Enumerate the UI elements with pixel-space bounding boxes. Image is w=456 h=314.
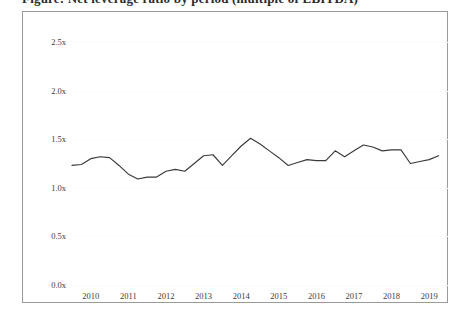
gridline xyxy=(72,285,448,286)
y-axis-tick-label: 2.0x xyxy=(51,86,66,96)
x-axis-tick-label: 2013 xyxy=(195,291,212,301)
y-axis-tick-label: 1.5x xyxy=(51,134,66,144)
figure-container: Figure: Net leverage ratio by period (mu… xyxy=(0,0,456,314)
y-axis-tick-label: 0.0x xyxy=(51,280,66,290)
x-axis-tick-label: 2014 xyxy=(233,291,250,301)
x-axis-tick-label: 2012 xyxy=(158,291,175,301)
plot-area: 0.0x0.5x1.0x1.5x2.0x2.5x 201020112012201… xyxy=(72,42,448,285)
series-line-chart xyxy=(72,42,448,285)
x-axis-tick-label: 2018 xyxy=(383,291,400,301)
chart-title-clipped: Figure: Net leverage ratio by period (mu… xyxy=(0,0,456,9)
x-axis-tick-label: 2019 xyxy=(421,291,438,301)
x-axis-tick-label: 2011 xyxy=(120,291,137,301)
x-axis-tick-label: 2010 xyxy=(82,291,99,301)
y-axis-tick-label: 2.5x xyxy=(51,37,66,47)
x-axis-tick-label: 2016 xyxy=(308,291,325,301)
y-axis-tick-label: 1.0x xyxy=(51,183,66,193)
x-axis-tick-label: 2015 xyxy=(270,291,287,301)
series-line-net-leverage xyxy=(72,138,439,179)
chart-title: Figure: Net leverage ratio by period (mu… xyxy=(22,0,358,7)
chart-panel: 0.0x0.5x1.0x1.5x2.0x2.5x 201020112012201… xyxy=(22,11,448,303)
x-axis-tick-label: 2017 xyxy=(346,291,363,301)
y-axis-tick-label: 0.5x xyxy=(51,231,66,241)
